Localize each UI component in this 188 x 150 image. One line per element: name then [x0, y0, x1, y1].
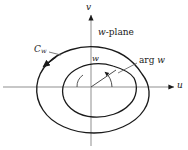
- plane-title-suffix: -plane: [106, 27, 134, 37]
- inner-spiral-curve: [63, 64, 137, 117]
- arg-w-prefix: arg: [139, 55, 157, 65]
- angle-reference-arc: [77, 75, 83, 87]
- point-w-label: w: [92, 55, 99, 63]
- complex-plane-figure: v u w-plane Cw w arg w: [0, 0, 188, 150]
- w-vector: [91, 70, 116, 87]
- plane-title-variable: w: [98, 27, 106, 37]
- v-axis-label: v: [86, 3, 91, 12]
- curve-label-letter: C: [34, 44, 41, 54]
- u-axis-label: u: [177, 81, 183, 90]
- diagram-canvas: [0, 0, 188, 150]
- curve-label: Cw: [34, 45, 46, 55]
- arg-w-label: arg w: [139, 56, 165, 65]
- curve-label-subscript: w: [41, 47, 47, 55]
- arg-w-variable: w: [157, 55, 165, 65]
- curve-label-leader-line: [49, 52, 61, 55]
- arg-w-angle-arc: [105, 72, 112, 87]
- plane-title: w-plane: [98, 28, 134, 37]
- curve-direction-arrow: [44, 57, 56, 66]
